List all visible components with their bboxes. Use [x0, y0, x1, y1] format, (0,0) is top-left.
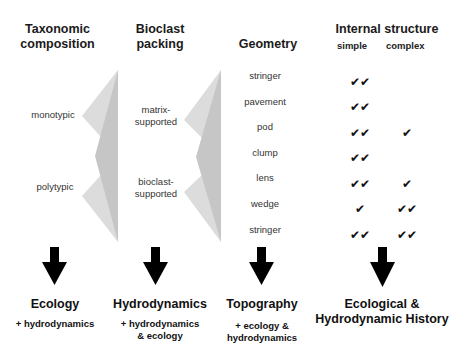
label-monotypic: monotypic [28, 109, 78, 121]
label-bioclast-supported: bioclast- supported [132, 176, 180, 200]
check-icon-simple: ✔✔ [345, 75, 375, 89]
check-icon-complex: ✔✔ [392, 228, 422, 242]
outcome-subtitle-2: hydrodynamics [220, 332, 304, 344]
outcome-subtitle: + hydrodynamics [10, 318, 100, 330]
header-bioclast-line1: Bioclast [120, 22, 200, 37]
header-internal-structure: Internal structure [330, 22, 444, 37]
header-bioclast-packing: Bioclast packing [120, 22, 200, 52]
header-taxonomic-line1: Taxonomic [10, 22, 105, 37]
outcome-title: Topography [220, 297, 304, 312]
header-bioclast-line2: packing [120, 37, 200, 52]
outcome-hydrodynamics: Hydrodynamics + hydrodynamics & ecology [110, 297, 210, 342]
label-polytypic: polytypic [32, 181, 78, 193]
label-bioclast-line1: bioclast- [132, 176, 180, 188]
check-icon-complex: ✔ [392, 126, 422, 140]
label-matrix-line1: matrix- [132, 104, 180, 116]
outcome-subtitle: + ecology & [220, 320, 304, 332]
geometry-row-name: pavement [232, 96, 298, 108]
outcome-title-line1: Ecological & [314, 297, 450, 312]
header-simple: simple [337, 40, 367, 51]
check-icon-simple: ✔✔ [345, 100, 375, 114]
geometry-row-name: clump [232, 147, 298, 159]
header-taxonomic-line2: composition [10, 37, 105, 52]
outcome-topography: Topography + ecology & hydrodynamics [220, 297, 304, 344]
geometry-row-name: wedge [232, 198, 298, 210]
check-icon-complex: ✔✔ [392, 202, 422, 216]
outcome-ecology: Ecology + hydrodynamics [10, 297, 100, 330]
outcome-subtitle-2: & ecology [110, 330, 210, 342]
arrow-icon-hydrodynamics [143, 247, 168, 285]
header-complex: complex [386, 40, 425, 51]
packing-wedges [184, 70, 221, 242]
geometry-row-name: pod [232, 121, 298, 133]
outcome-title: Ecology [10, 297, 100, 312]
check-icon-simple: ✔✔ [345, 151, 375, 165]
label-matrix-line2: supported [132, 116, 180, 128]
outcome-ecological-hydrodynamic-history: Ecological & Hydrodynamic History [314, 297, 450, 327]
arrow-icon-ecology [42, 247, 67, 285]
outcome-subtitle: + hydrodynamics [110, 318, 210, 330]
check-icon-simple: ✔✔ [345, 228, 375, 242]
check-icon-simple: ✔ [345, 202, 375, 216]
arrow-icon-history [370, 247, 395, 287]
outcome-title: Hydrodynamics [110, 297, 210, 312]
check-icon-complex: ✔ [392, 177, 422, 191]
geometry-row-name: stringer [232, 224, 298, 236]
geometry-row-name: lens [232, 172, 298, 184]
label-bioclast-line2: supported [132, 188, 180, 200]
arrow-icon-topography [249, 247, 274, 285]
geometry-row-name: stringer [232, 70, 298, 82]
check-icon-simple: ✔✔ [345, 126, 375, 140]
taxonomic-wedges [82, 70, 118, 242]
check-icon-simple: ✔✔ [345, 177, 375, 191]
header-taxonomic-composition: Taxonomic composition [10, 22, 105, 52]
header-geometry: Geometry [228, 37, 308, 52]
label-matrix-supported: matrix- supported [132, 104, 180, 128]
outcome-title-line2: Hydrodynamic History [314, 312, 450, 327]
